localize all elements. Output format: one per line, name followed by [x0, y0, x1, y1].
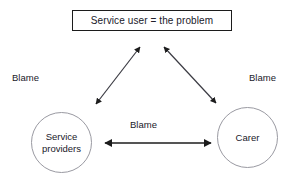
- node-service-providers-circle: Service providers: [31, 112, 92, 173]
- diagram-canvas: Service user = the problem Service provi…: [0, 0, 297, 184]
- edge-label-blame-right: Blame: [249, 73, 276, 83]
- arrow-left-diagonal: [96, 47, 140, 104]
- node-service-user-box: Service user = the problem: [72, 10, 232, 31]
- arrow-right-diagonal: [164, 47, 216, 103]
- edge-label-blame-left: Blame: [12, 73, 39, 83]
- node-carer-label: Carer: [236, 132, 260, 144]
- node-service-user-label: Service user = the problem: [91, 16, 213, 26]
- edge-label-blame-center: Blame: [130, 120, 157, 130]
- node-service-providers-label: Service providers: [42, 131, 81, 155]
- node-carer-circle: Carer: [217, 107, 278, 168]
